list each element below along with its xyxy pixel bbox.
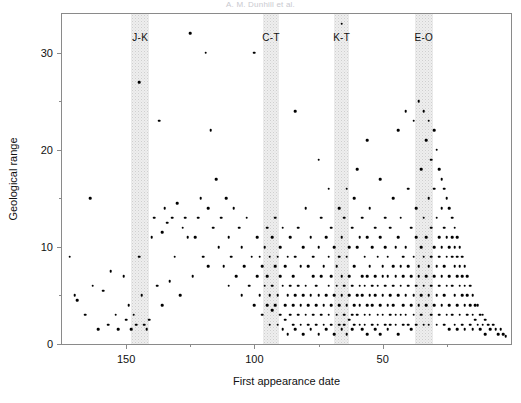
data-point: [446, 284, 449, 287]
data-point: [389, 314, 392, 317]
data-point: [387, 328, 390, 331]
data-point: [294, 294, 297, 297]
data-point: [122, 275, 125, 278]
y-axis-minor-tick: [59, 198, 62, 199]
data-point: [397, 294, 400, 297]
data-point: [284, 265, 287, 268]
data-point: [369, 207, 372, 210]
data-point: [197, 217, 200, 220]
data-point: [379, 178, 382, 181]
data-point: [143, 323, 146, 326]
data-point: [330, 226, 333, 229]
data-point: [166, 221, 169, 224]
data-point: [448, 207, 451, 210]
data-point: [440, 207, 443, 210]
data-point: [322, 265, 325, 268]
data-point: [307, 265, 310, 268]
data-point: [343, 323, 346, 326]
data-point: [471, 294, 474, 297]
data-point: [168, 280, 171, 283]
data-point: [402, 304, 405, 307]
data-point: [338, 207, 341, 210]
data-point: [420, 168, 423, 171]
data-point: [384, 284, 387, 287]
data-point: [292, 275, 295, 278]
data-point: [328, 187, 331, 190]
data-point: [430, 255, 433, 258]
y-axis-title-label: Geological range: [7, 137, 19, 220]
data-point: [253, 304, 256, 307]
data-point: [451, 284, 454, 287]
data-point: [410, 328, 413, 331]
data-point: [461, 255, 464, 258]
y-axis-tick: [57, 150, 62, 151]
data-point: [315, 323, 318, 326]
data-point: [456, 236, 459, 239]
data-point: [402, 275, 405, 278]
data-point: [330, 323, 333, 326]
data-point: [361, 217, 364, 220]
data-point: [345, 304, 348, 307]
data-point: [274, 217, 277, 220]
data-point: [484, 333, 487, 336]
data-point: [369, 265, 372, 268]
data-point: [253, 52, 256, 55]
data-point: [443, 294, 446, 297]
extinction-band-label: E-O: [414, 32, 433, 43]
data-point: [261, 314, 264, 317]
data-point: [227, 284, 230, 287]
data-point: [415, 236, 418, 239]
data-point: [448, 328, 451, 331]
data-point: [353, 304, 356, 307]
data-point: [151, 236, 154, 239]
data-point: [91, 284, 94, 287]
data-point: [387, 304, 390, 307]
data-point: [394, 246, 397, 249]
y-axis-tick: [57, 53, 62, 54]
data-point: [340, 275, 343, 278]
data-point: [389, 323, 392, 326]
data-point: [345, 255, 348, 258]
data-point: [269, 294, 272, 297]
data-point: [204, 52, 207, 55]
data-point: [474, 318, 477, 321]
data-point: [356, 168, 359, 171]
data-point: [420, 314, 423, 317]
data-point: [299, 265, 302, 268]
data-point: [145, 328, 148, 331]
data-point: [328, 284, 331, 287]
data-point: [217, 246, 220, 249]
data-point: [420, 294, 423, 297]
data-point: [407, 187, 410, 190]
extinction-band-label: J-K: [132, 32, 148, 43]
data-point: [379, 304, 382, 307]
data-point: [351, 226, 354, 229]
data-point: [192, 275, 195, 278]
data-point: [230, 255, 233, 258]
data-point: [464, 265, 467, 268]
data-point: [109, 270, 112, 273]
data-point: [225, 197, 228, 200]
data-point: [476, 323, 479, 326]
data-point: [363, 314, 366, 317]
data-point: [410, 275, 413, 278]
data-point: [369, 314, 372, 317]
data-point: [374, 294, 377, 297]
data-point: [210, 129, 213, 132]
data-point: [207, 265, 210, 268]
data-point: [238, 226, 241, 229]
data-point: [266, 275, 269, 278]
data-point: [425, 139, 428, 142]
data-point: [381, 314, 384, 317]
data-point: [376, 284, 379, 287]
data-point: [376, 314, 379, 317]
data-point: [481, 323, 484, 326]
data-point: [446, 255, 449, 258]
data-point: [407, 284, 410, 287]
data-point: [274, 304, 277, 307]
data-point: [425, 236, 428, 239]
data-point: [402, 323, 405, 326]
data-point: [430, 226, 433, 229]
data-point: [407, 323, 410, 326]
x-axis-tick: [126, 344, 127, 349]
